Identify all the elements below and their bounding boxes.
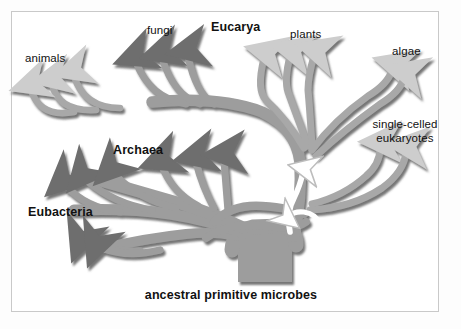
branch-plants-1 bbox=[260, 58, 304, 148]
label-ancestral-primitive-microbes: ancestral primitive microbes bbox=[129, 288, 333, 302]
branch-archaea-5 bbox=[224, 160, 228, 210]
branch-archaea-4 bbox=[196, 162, 214, 208]
label-fungi: fungi bbox=[147, 24, 172, 36]
tree-of-life-figure: animals fungi Eucarya plants algae singl… bbox=[0, 0, 461, 329]
label-eucarya: Eucarya bbox=[211, 20, 260, 34]
label-single-celled-line2: eukaryotes bbox=[376, 132, 433, 144]
label-single-celled-line1: single-celled bbox=[372, 118, 437, 130]
label-plants: plants bbox=[290, 28, 321, 40]
branch-animals-1 bbox=[74, 76, 120, 108]
label-single-celled-eukaryotes: single-celled eukaryotes bbox=[359, 118, 451, 145]
label-animals: animals bbox=[25, 52, 65, 64]
label-algae: algae bbox=[392, 45, 421, 57]
label-eubacteria: Eubacteria bbox=[28, 205, 93, 219]
label-archaea: Archaea bbox=[113, 143, 163, 157]
branch-plants-3 bbox=[308, 56, 314, 146]
tree-branches bbox=[31, 56, 406, 282]
trunk-ancestral bbox=[238, 231, 292, 282]
